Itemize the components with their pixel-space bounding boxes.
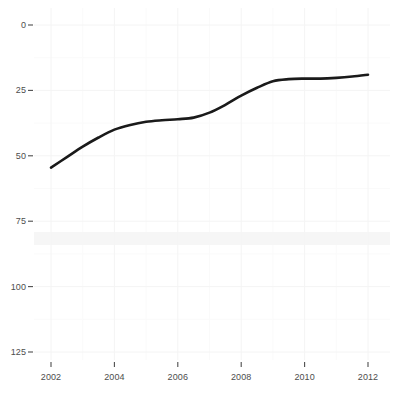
y-axis-tick-label: 75 (0, 216, 26, 226)
y-tick-marks (28, 25, 33, 352)
y-axis-tick-label: 25 (0, 85, 26, 95)
x-axis-tick-label: 2006 (168, 372, 188, 382)
plot-area (0, 0, 397, 402)
y-axis-tick-label: 100 (0, 282, 26, 292)
x-axis-tick-label: 2002 (41, 372, 61, 382)
x-axis-tick-label: 2004 (104, 372, 124, 382)
x-axis-tick-label: 2012 (358, 372, 378, 382)
line-chart: 1251007550250 200220042006200820102012 (0, 0, 397, 402)
y-axis-tick-label: 125 (0, 347, 26, 357)
x-axis-tick-label: 2010 (294, 372, 314, 382)
y-axis-tick-label: 0 (0, 20, 26, 30)
y-axis-tick-label: 50 (0, 151, 26, 161)
x-axis-tick-label: 2008 (231, 372, 251, 382)
render-band-artifact (34, 232, 390, 245)
x-tick-marks (51, 362, 368, 367)
